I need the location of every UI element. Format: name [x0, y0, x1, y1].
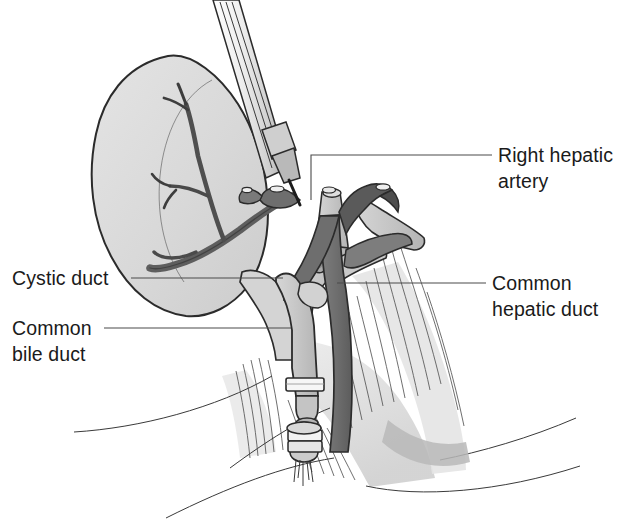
anatomy-illustration: Right hepatic artery Common hepatic duct… — [0, 0, 623, 526]
label-common-bile-duct-line1: Common — [12, 317, 92, 339]
label-right-hepatic-artery-line2: artery — [498, 170, 549, 192]
figure-root: Right hepatic artery Common hepatic duct… — [0, 0, 623, 526]
artery-cut-cap-a — [270, 186, 284, 192]
artery-cut-cap-c — [376, 184, 390, 190]
artery-cut-cap-b — [242, 187, 252, 192]
label-cystic-duct: Cystic duct — [12, 267, 109, 289]
label-common-hepatic-duct-line2: hepatic duct — [492, 298, 599, 320]
label-common-hepatic-duct-line1: Common — [492, 272, 572, 294]
clip-3 — [288, 441, 322, 452]
label-right-hepatic-artery-line1: Right hepatic — [498, 144, 613, 166]
label-common-bile-duct-line2: bile duct — [12, 343, 86, 365]
clip-1 — [286, 378, 324, 391]
clip-top-cap — [287, 422, 321, 434]
artery-cut-cap-d — [323, 187, 336, 193]
